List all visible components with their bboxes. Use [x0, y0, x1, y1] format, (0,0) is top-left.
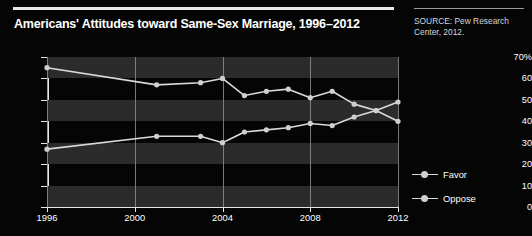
source-rule [414, 8, 524, 9]
series-layer [47, 57, 398, 207]
y-axis-tick-mark [41, 57, 47, 58]
data-point-oppose [198, 80, 203, 85]
data-point-favor [220, 140, 225, 145]
data-point-favor [286, 125, 291, 130]
y-axis-tick-mark [41, 78, 47, 79]
data-point-oppose [242, 93, 247, 98]
legend-label-favor: Favor [443, 169, 467, 180]
data-point-favor [308, 121, 313, 126]
x-axis-tick-mark [223, 207, 224, 212]
y-axis-tick-label: 30 [492, 138, 532, 148]
y-axis-tick-mark [41, 164, 47, 165]
x-axis-tick-mark [135, 207, 136, 212]
data-point-favor [264, 127, 269, 132]
x-axis-tick-label: 2012 [388, 212, 409, 223]
x-axis-tick-label: 2004 [212, 212, 233, 223]
chart-figure: Americans' Attitudes toward Same-Sex Mar… [0, 0, 532, 236]
data-point-favor [352, 114, 357, 119]
data-point-oppose [286, 87, 291, 92]
data-point-oppose [264, 89, 269, 94]
data-point-oppose [308, 95, 313, 100]
y-axis-tick-label: 60 [492, 73, 532, 83]
legend-item-favor[interactable]: Favor [412, 162, 522, 186]
data-point-favor [373, 108, 378, 113]
data-point-favor [44, 147, 49, 152]
data-point-favor [330, 123, 335, 128]
y-axis-tick-mark [41, 100, 47, 101]
x-axis-tick-mark [398, 207, 399, 212]
data-point-favor [198, 134, 203, 139]
legend: Favor Oppose [412, 162, 522, 210]
y-axis-tick-mark [41, 186, 47, 187]
y-axis-tick-mark [41, 143, 47, 144]
x-axis-tick-mark [310, 207, 311, 212]
page-title: Americans' Attitudes toward Same-Sex Mar… [14, 17, 402, 31]
title-rule [13, 7, 394, 10]
data-point-oppose [220, 76, 225, 81]
data-point-favor [154, 134, 159, 139]
source-caption: SOURCE: Pew Research Center, 2012. [414, 16, 526, 38]
data-point-oppose [330, 89, 335, 94]
legend-marker-favor-icon [412, 170, 438, 179]
y-axis-tick-label: 40 [492, 116, 532, 126]
data-point-oppose [44, 65, 49, 70]
data-point-favor [242, 129, 247, 134]
y-axis-tick-label: 50 [492, 95, 532, 105]
data-point-oppose [352, 102, 357, 107]
y-axis-tick-label: 70% [492, 52, 532, 62]
series-line-oppose [47, 68, 398, 122]
legend-label-oppose: Oppose [443, 193, 476, 204]
plot-area [47, 57, 398, 207]
x-axis-tick-label: 2008 [300, 212, 321, 223]
data-point-oppose [395, 119, 400, 124]
x-axis-tick-mark [47, 207, 48, 212]
legend-marker-oppose-icon [412, 194, 438, 203]
x-axis-tick-label: 2000 [124, 212, 145, 223]
vertical-gridline [398, 57, 399, 207]
x-axis-tick-label: 1996 [37, 212, 58, 223]
y-axis-tick-mark [41, 121, 47, 122]
data-point-oppose [154, 82, 159, 87]
legend-item-oppose[interactable]: Oppose [412, 186, 522, 210]
data-point-favor [395, 99, 400, 104]
